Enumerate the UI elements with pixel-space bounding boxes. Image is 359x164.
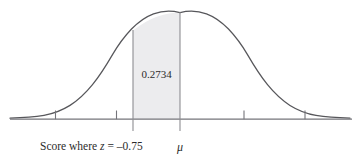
caption-equals-value: = –0.75	[105, 140, 143, 152]
normal-curve-figure: 0.2734 Score where z = –0.75 μ	[0, 0, 359, 164]
shaded-area-region	[133, 13, 180, 119]
mean-symbol-label: μ	[176, 140, 183, 154]
caption-prefix-text: Score where	[40, 140, 100, 152]
normal-curve-chart: 0.2734 Score where z = –0.75 μ	[0, 0, 359, 164]
shaded-area-value-label: 0.2734	[141, 68, 172, 80]
z-score-caption: Score where z = –0.75	[40, 140, 143, 152]
